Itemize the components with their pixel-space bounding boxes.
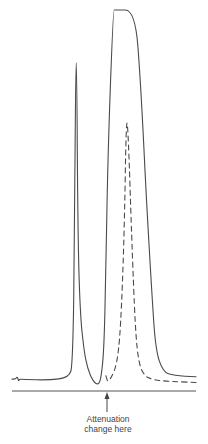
attenuation-arrow [105,392,110,412]
annotation-line-1: Attenuation [86,414,129,424]
arrow-head-icon [105,392,110,399]
chromatogram-chart: Attenuation change here [0,0,208,444]
chromatogram-trace [12,10,196,384]
attenuated-trace [106,123,196,382]
annotation-line-2: change here [84,424,132,434]
